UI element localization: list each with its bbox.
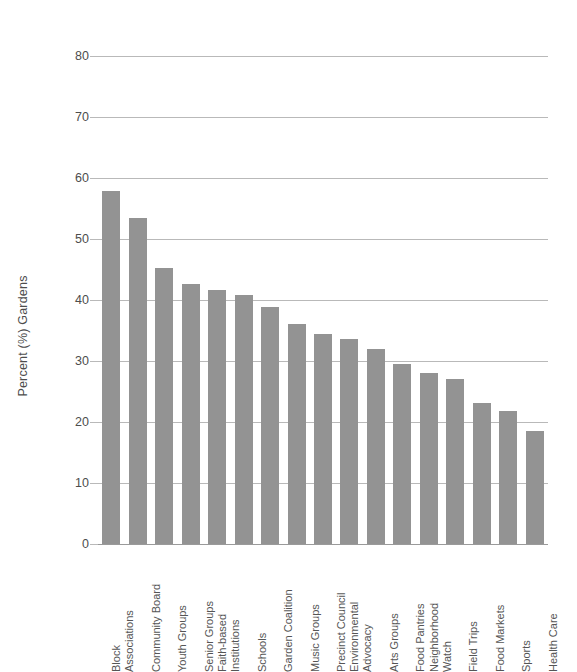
x-tick-label-line: Food Pantries (414, 604, 427, 672)
bar (499, 411, 517, 544)
x-tick-label: Food Markets (488, 548, 506, 672)
y-tick-label: 50 (75, 232, 89, 246)
x-tick-label-line: Neighborhood (428, 603, 441, 672)
bar (155, 268, 173, 544)
x-tick-label: Senior Groups (197, 548, 215, 672)
y-tick-mark (90, 483, 98, 484)
x-tick-label: Faith-basedInstitutions (223, 548, 241, 672)
y-tick-label: 20 (75, 415, 89, 429)
x-tick-label: EnvironmentalAdvocacy (355, 548, 373, 672)
y-tick-mark (90, 422, 98, 423)
x-tick-label-line: Schools (255, 633, 268, 672)
x-tick-label: Garden Coalition (276, 548, 294, 672)
x-tick-label: Arts Groups (382, 548, 400, 672)
plot-area: 80706050403020100 (98, 56, 548, 544)
x-tick-label-line: Precinct Council (335, 593, 348, 672)
bar (526, 431, 544, 544)
y-tick-mark (90, 178, 98, 179)
y-tick-label: 80 (75, 49, 89, 63)
y-tick-label: 60 (75, 171, 89, 185)
bar (208, 290, 226, 544)
y-axis-title: Percent (%) Gardens (0, 0, 46, 672)
x-tick-label-line: Institutions (229, 619, 242, 672)
x-tick-label: Health Care (541, 548, 559, 672)
x-tick-label: Schools (250, 548, 268, 672)
x-tick-label: NeighborhoodWatch (435, 548, 453, 672)
y-tick-mark (90, 300, 98, 301)
y-tick-mark (90, 56, 98, 57)
x-tick-label: Precinct Council (329, 548, 347, 672)
axis-baseline (98, 544, 548, 545)
x-tick-label-line: Block (110, 645, 123, 672)
x-tick-label: Youth Groups (170, 548, 188, 672)
bar (182, 284, 200, 544)
bar (261, 307, 279, 544)
bar (314, 334, 332, 544)
x-tick-label: Music Groups (303, 548, 321, 672)
x-tick-label-line: Garden Coalition (282, 589, 295, 672)
x-tick-label-line: Arts Groups (387, 613, 400, 672)
y-tick-label: 0 (82, 537, 89, 551)
x-tick-label-line: Food Markets (493, 605, 506, 672)
y-tick-mark (90, 544, 98, 545)
y-tick-label: 70 (75, 110, 89, 124)
x-tick-label: BlockAssociations (117, 548, 135, 672)
x-tick-label: Community Board (144, 548, 162, 672)
x-tick-label-line: Associations (123, 610, 136, 672)
bar (102, 191, 120, 544)
x-tick-label: Food Pantries (408, 548, 426, 672)
x-tick-label-line: Advocacy (361, 624, 374, 672)
x-tick-label-line: Health Care (546, 613, 559, 672)
bar (473, 403, 491, 544)
y-tick-label: 10 (75, 476, 89, 490)
x-tick-label-line: Youth Groups (176, 605, 189, 672)
x-tick-label-line: Watch (440, 641, 453, 672)
bar (340, 339, 358, 544)
x-tick-label-line: Faith-based (216, 614, 229, 672)
bars-group (98, 56, 548, 544)
x-tick-label-line: Sports (520, 640, 533, 672)
bar (129, 218, 147, 544)
x-tick-label-line: Music Groups (308, 604, 321, 672)
x-tick-label-line: Field Trips (467, 621, 480, 672)
x-tick-label: Sports (514, 548, 532, 672)
y-tick-mark (90, 361, 98, 362)
y-tick-mark (90, 239, 98, 240)
x-tick-label-line: Community Board (149, 584, 162, 672)
bar (420, 373, 438, 544)
x-tick-label-line: Senior Groups (202, 601, 215, 672)
y-tick-label: 30 (75, 354, 89, 368)
bar (367, 349, 385, 544)
bar-chart: Percent (%) Gardens 80706050403020100 Bl… (0, 0, 577, 672)
y-tick-mark (90, 117, 98, 118)
x-axis-category-labels: BlockAssociationsCommunity BoardYouth Gr… (98, 548, 548, 672)
bar (393, 364, 411, 544)
x-tick-label: Field Trips (461, 548, 479, 672)
y-tick-label: 40 (75, 293, 89, 307)
bar (235, 295, 253, 544)
bar (288, 324, 306, 544)
bar (446, 379, 464, 544)
x-tick-label-line: Environmental (348, 602, 361, 672)
